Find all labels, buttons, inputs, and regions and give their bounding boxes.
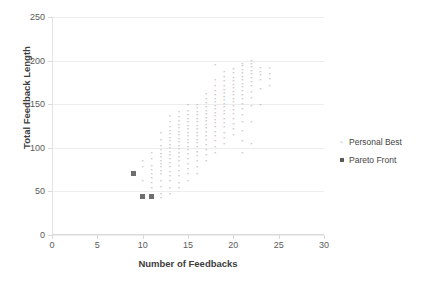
y-axis-line: [52, 17, 53, 235]
legend-item-personal-best[interactable]: ×Personal Best: [337, 133, 433, 151]
x-tick-mark: [52, 235, 53, 239]
data-point: [140, 194, 145, 199]
data-point: [149, 194, 154, 199]
x-tick-label: 10: [138, 240, 148, 250]
y-tick-label: 100: [30, 143, 45, 153]
x-tick-label: 20: [228, 240, 238, 250]
data-point: [131, 171, 136, 176]
x-tick-label: 25: [274, 240, 284, 250]
y-axis-title: Total Feedback Length: [21, 23, 32, 173]
chart-legend: ×Personal BestPareto Front: [337, 133, 433, 169]
x-tick-mark: [233, 235, 234, 239]
plot-area: 050100150200250 051015202530 ×××××××××××…: [52, 17, 324, 235]
square-marker-icon: [337, 156, 346, 165]
x-tick-label: 30: [319, 240, 329, 250]
y-tick-label: 250: [30, 12, 45, 22]
legend-label: Personal Best: [349, 137, 402, 147]
x-tick-label: 15: [183, 240, 193, 250]
x-axis-line: [52, 234, 324, 235]
x-tick-mark: [97, 235, 98, 239]
scatter-chart: 050100150200250 051015202530 ×××××××××××…: [0, 0, 438, 289]
y-tick-label: 150: [30, 99, 45, 109]
x-tick-mark: [324, 235, 325, 239]
legend-label: Pareto Front: [349, 155, 396, 165]
x-axis-title: Number of Feedbacks: [52, 258, 324, 269]
legend-item-pareto-front[interactable]: Pareto Front: [337, 151, 433, 169]
y-tick-label: 200: [30, 56, 45, 66]
x-tick-mark: [143, 235, 144, 239]
x-tick-mark: [279, 235, 280, 239]
y-tick-label: 0: [40, 230, 45, 240]
x-tick-label: 0: [49, 240, 54, 250]
x-marker-icon: ×: [337, 138, 346, 147]
x-tick-label: 5: [95, 240, 100, 250]
x-tick-mark: [188, 235, 189, 239]
series-pareto-front: [52, 17, 324, 235]
y-tick-label: 50: [35, 186, 45, 196]
